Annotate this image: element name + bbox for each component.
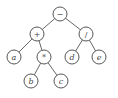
expression-tree-diagram: −+/a*debc <box>0 0 118 98</box>
node-label: a <box>12 53 17 62</box>
tree-node-div: / <box>79 27 93 41</box>
edge-div-d <box>76 40 83 51</box>
edge-mul-b <box>34 63 40 75</box>
node-label: c <box>59 77 64 86</box>
edge-div-e <box>89 40 95 51</box>
edge-plus-mul <box>39 41 42 51</box>
node-label: * <box>42 53 46 62</box>
node-label: + <box>34 30 41 39</box>
tree-node-d: d <box>65 50 79 64</box>
tree-node-plus: + <box>30 27 44 41</box>
node-label: e <box>97 53 102 62</box>
edge-mul-c <box>48 63 57 76</box>
tree-node-mul: * <box>37 50 51 64</box>
tree-node-e: e <box>92 50 106 64</box>
tree-node-b: b <box>24 74 38 88</box>
edge-root-plus <box>42 19 54 30</box>
edge-plus-a <box>19 39 32 52</box>
node-label: b <box>28 77 33 86</box>
node-label: / <box>85 30 88 39</box>
tree-nodes: −+/a*debc <box>7 7 106 88</box>
edge-root-div <box>66 18 81 29</box>
node-label: − <box>57 10 64 19</box>
tree-node-a: a <box>7 50 21 64</box>
node-label: d <box>69 53 74 62</box>
tree-node-root: − <box>53 7 67 21</box>
tree-node-c: c <box>54 74 68 88</box>
